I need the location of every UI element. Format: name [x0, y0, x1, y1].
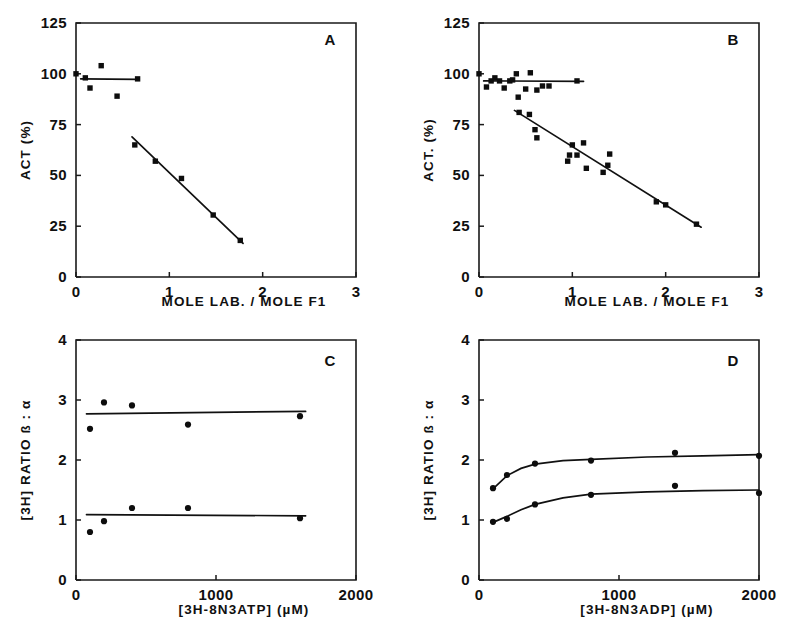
data-point: [607, 151, 612, 156]
data-point: [574, 78, 579, 83]
x-tick-label: 3: [352, 283, 361, 300]
data-point: [297, 413, 303, 419]
data-point: [588, 492, 594, 498]
y-axis-title: [3H] RATIO ß : α: [421, 400, 436, 521]
x-axis-title: MOLE LAB. / MOLE F1: [565, 294, 730, 309]
fit-line: [87, 411, 306, 413]
y-tick-label: 4: [461, 331, 470, 348]
data-point: [546, 83, 551, 88]
panel-letter: C: [325, 352, 336, 369]
data-point: [514, 71, 519, 76]
data-point: [185, 505, 191, 511]
data-point: [135, 76, 140, 81]
panel-a: 02550751001250123MOLE LAB. / MOLE F1ACT …: [0, 0, 403, 320]
data-point: [600, 170, 605, 175]
fit-curve: [493, 455, 759, 489]
y-tick-label: 0: [58, 268, 67, 285]
axis-frame: [479, 23, 759, 277]
x-tick-label: 0: [72, 586, 81, 603]
data-point: [476, 71, 481, 76]
y-tick-label: 75: [50, 116, 68, 133]
y-tick-label: 3: [461, 391, 470, 408]
data-point: [581, 140, 586, 145]
data-point: [497, 78, 502, 83]
data-point: [490, 485, 496, 491]
data-point: [484, 84, 489, 89]
data-point: [87, 529, 93, 535]
y-tick-label: 100: [41, 65, 67, 82]
panel-letter: A: [325, 31, 336, 48]
x-axis-title: MOLE LAB. / MOLE F1: [162, 294, 327, 309]
y-tick-label: 25: [453, 217, 471, 234]
data-point: [672, 483, 678, 489]
data-point: [605, 163, 610, 168]
figure-panels-abcd: 02550751001250123MOLE LAB. / MOLE F1ACT …: [0, 0, 806, 635]
y-axis-title: ACT (%): [18, 120, 33, 180]
data-point: [523, 86, 528, 91]
data-point: [516, 110, 521, 115]
data-point: [490, 519, 496, 525]
panel-a-plot: 02550751001250123MOLE LAB. / MOLE F1ACT …: [0, 0, 403, 320]
fit-line: [514, 110, 701, 227]
fit-line: [132, 137, 243, 244]
x-tick-label: 2000: [339, 586, 374, 603]
data-point: [87, 426, 93, 432]
y-tick-label: 125: [41, 14, 67, 31]
y-axis-title: ACT. (%): [421, 118, 436, 182]
data-point: [114, 93, 119, 98]
panel-letter: B: [728, 31, 739, 48]
data-point: [99, 63, 104, 68]
data-point: [510, 77, 515, 82]
data-point: [238, 238, 243, 243]
y-tick-label: 2: [58, 451, 67, 468]
y-tick-label: 2: [461, 451, 470, 468]
x-tick-label: 0: [475, 283, 484, 300]
axis-frame: [479, 340, 759, 580]
data-point: [502, 85, 507, 90]
panel-b-plot: 02550751001250123MOLE LAB. / MOLE F1ACT.…: [403, 0, 806, 320]
axis-frame: [76, 23, 356, 277]
x-tick-label: 2000: [742, 586, 777, 603]
x-tick-label: 1000: [602, 586, 637, 603]
data-point: [73, 71, 78, 76]
data-point: [492, 75, 497, 80]
data-point: [532, 501, 538, 507]
data-point: [527, 112, 532, 117]
y-tick-label: 125: [444, 14, 470, 31]
data-point: [129, 402, 135, 408]
y-tick-label: 50: [50, 166, 68, 183]
data-point: [504, 516, 510, 522]
data-point: [663, 202, 668, 207]
data-point: [588, 458, 594, 464]
data-point: [101, 518, 107, 524]
axis-frame: [76, 340, 356, 580]
panel-d: 01234010002000[3H-8N3ADP] (µM)[3H] RATIO…: [403, 318, 806, 635]
y-tick-label: 1: [461, 511, 470, 528]
data-point: [504, 472, 510, 478]
y-tick-label: 100: [444, 65, 470, 82]
panel-c: 01234010002000[3H-8N3ATP] (µM)[3H] RATIO…: [0, 318, 403, 635]
x-tick-label: 0: [475, 586, 484, 603]
panel-d-plot: 01234010002000[3H-8N3ADP] (µM)[3H] RATIO…: [403, 318, 806, 635]
x-axis-title: [3H-8N3ATP] (µM): [179, 602, 310, 617]
y-tick-label: 1: [58, 511, 67, 528]
x-tick-label: 1000: [199, 586, 234, 603]
data-point: [532, 461, 538, 467]
data-point: [83, 75, 88, 80]
y-axis-title: [3H] RATIO ß : α: [18, 400, 33, 521]
data-point: [153, 158, 158, 163]
panel-letter: D: [728, 352, 739, 369]
x-tick-label: 3: [755, 283, 764, 300]
panel-b: 02550751001250123MOLE LAB. / MOLE F1ACT.…: [403, 0, 806, 320]
y-tick-label: 50: [453, 166, 471, 183]
data-point: [694, 221, 699, 226]
panel-c-plot: 01234010002000[3H-8N3ATP] (µM)[3H] RATIO…: [0, 318, 403, 635]
data-point: [129, 505, 135, 511]
data-point: [516, 94, 521, 99]
data-point: [534, 87, 539, 92]
y-tick-label: 75: [453, 116, 471, 133]
data-point: [654, 199, 659, 204]
y-tick-label: 0: [461, 571, 470, 588]
data-point: [534, 135, 539, 140]
data-point: [101, 399, 107, 405]
